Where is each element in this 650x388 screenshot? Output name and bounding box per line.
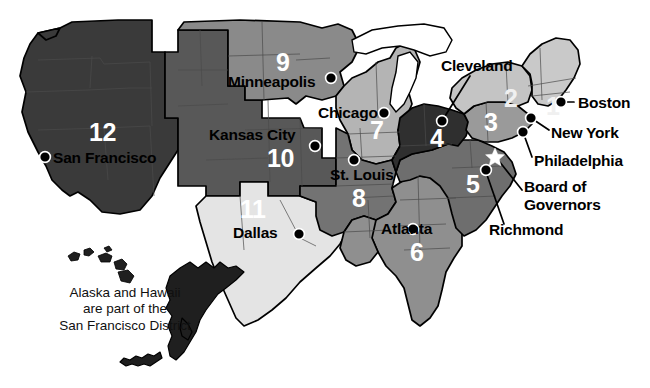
cleveland-dot[interactable] — [437, 116, 448, 127]
richmond-dot[interactable] — [481, 165, 492, 176]
chicago-dot[interactable] — [379, 108, 390, 119]
boston-dot[interactable] — [556, 97, 567, 108]
new-york-dot[interactable] — [526, 113, 537, 124]
alaska-aleutians — [120, 352, 162, 366]
map-svg — [0, 0, 650, 388]
philadelphia-dot[interactable] — [518, 127, 529, 138]
district-12-region[interactable] — [20, 20, 178, 214]
san-francisco-dot[interactable] — [40, 152, 51, 163]
hawaii-shape — [68, 246, 134, 283]
federal-reserve-district-map: 9 12 10 7 4 3 2 1 5 8 11 6 Minneapolis C… — [0, 0, 650, 388]
kansas-city-dot[interactable] — [310, 141, 321, 152]
minneapolis-dot[interactable] — [326, 73, 337, 84]
atlanta-dot[interactable] — [408, 224, 419, 235]
dallas-dot[interactable] — [294, 229, 305, 240]
st-louis-dot[interactable] — [349, 155, 360, 166]
